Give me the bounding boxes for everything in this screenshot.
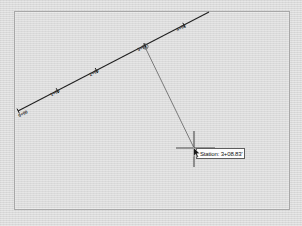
cad-drawing-layer[interactable] xyxy=(0,0,302,226)
screenshot-root: 0+00 1+00 2+00 3+00 4+00 Station: 3+08.8… xyxy=(0,0,302,226)
station-tooltip-text: Station: 3+08.83' xyxy=(200,151,242,157)
station-tooltip: Station: 3+08.83' xyxy=(196,148,245,159)
station-leader-line[interactable] xyxy=(145,47,194,148)
